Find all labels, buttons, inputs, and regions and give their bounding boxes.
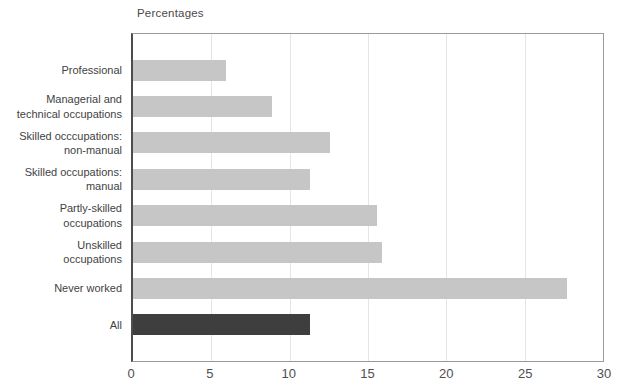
bar-track [131,132,604,153]
bar-highlight [133,314,310,335]
bar-track [131,169,604,190]
bar-row: Unskilled occupations [0,234,604,270]
category-label: Never worked [0,281,131,295]
bar-value [133,60,226,81]
bar-value [133,242,382,263]
bar-row: All [0,307,604,343]
x-tick-label: 30 [597,366,611,381]
category-label: Unskilled occupations [0,238,131,267]
bar-value [133,205,377,226]
x-tick-label: 15 [360,366,374,381]
bar-row: Skilled occcupations: non-manual [0,125,604,161]
bar-track [131,205,604,226]
bar-row: Professional [0,52,604,88]
bar-row: Skilled occupations: manual [0,161,604,197]
category-label: Skilled occcupations: non-manual [0,129,131,158]
bar-track [131,278,604,299]
bar-value [133,278,567,299]
x-tick-label: 20 [439,366,453,381]
bar-chart: Percentages ProfessionalManagerial and t… [0,0,632,384]
axis-unit-title: Percentages [137,7,204,19]
bar-track [131,60,604,81]
category-label: Skilled occupations: manual [0,165,131,194]
bar-track [131,242,604,263]
bar-rows: ProfessionalManagerial and technical occ… [0,33,604,362]
x-tick-label: 25 [518,366,532,381]
category-label: Partly-skilled occupations [0,201,131,230]
x-tick-label: 10 [281,366,295,381]
bar-value [133,96,272,117]
x-axis-ticks: 051015202530 [131,366,604,382]
x-tick-label: 5 [206,366,213,381]
bar-row: Partly-skilled occupations [0,198,604,234]
x-tick-label: 0 [127,366,134,381]
bar-value [133,132,330,153]
bar-row: Never worked [0,270,604,306]
category-label: Professional [0,63,131,77]
category-label: Managerial and technical occupations [0,92,131,121]
category-label: All [0,318,131,332]
bar-value [133,169,310,190]
bar-track [131,96,604,117]
bar-track [131,314,604,335]
bar-row: Managerial and technical occupations [0,88,604,124]
